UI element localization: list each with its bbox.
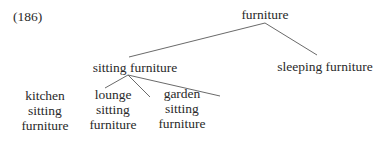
node-kitchen-sitting-furniture: kitchen sitting furniture xyxy=(15,88,75,133)
node-label-line: sitting xyxy=(15,103,75,118)
node-label-line: sitting xyxy=(83,102,143,117)
node-label-line: garden xyxy=(152,86,212,101)
node-root: furniture xyxy=(225,7,305,22)
node-garden-sitting-furniture: garden sitting furniture xyxy=(152,86,212,131)
node-label-line: furniture xyxy=(83,117,143,132)
node-label-line: sitting xyxy=(152,101,212,116)
node-label-line: lounge xyxy=(83,87,143,102)
node-lounge-sitting-furniture: lounge sitting furniture xyxy=(83,87,143,132)
node-sleeping-furniture: sleeping furniture xyxy=(270,59,380,74)
node-label-line: furniture xyxy=(152,116,212,131)
edge-root-to-sitting xyxy=(129,23,265,57)
edge-root-to-sleeping xyxy=(265,23,317,55)
node-label-line: kitchen xyxy=(15,88,75,103)
example-number: (186) xyxy=(13,9,42,24)
node-sitting-furniture: sitting furniture xyxy=(80,60,190,75)
node-label-line: furniture xyxy=(15,118,75,133)
